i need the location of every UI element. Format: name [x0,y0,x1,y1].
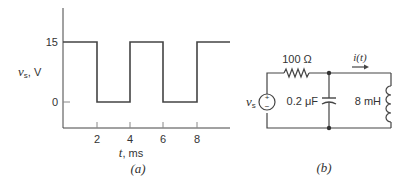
x-tick-label-6: 6 [160,133,166,145]
y-axis-label: vs, V [18,64,42,80]
source-minus-sign: − [265,102,270,111]
resistor-label: 100 Ω [282,53,312,65]
caption-a: (a) [130,161,145,176]
capacitor-label: 0.2 μF [287,95,319,107]
y-tick-label-15: 15 [46,36,58,48]
current-label: i(t) [353,51,367,64]
node-bottom [327,126,331,130]
x-tick-label-2: 2 [94,133,100,145]
circuit-diagram: 100 Ω + − vs 0.2 μF 8 mH i(t) (b) [246,51,391,175]
square-wave-trace [63,42,230,102]
node-top [327,71,331,75]
source-label: vs [246,94,256,110]
inductor-icon [386,86,391,122]
waveform-plot: 15 0 2 4 6 8 vs, V t, ms (a) [18,8,230,176]
current-arrowhead-icon [364,65,369,70]
y-tick-label-0: 0 [52,96,58,108]
x-tick-label-4: 4 [127,133,133,145]
source-plus-sign: + [265,93,270,102]
resistor-icon [284,69,309,77]
figure-canvas: 15 0 2 4 6 8 vs, V t, ms (a) 100 Ω + − v… [0,0,414,184]
x-tick-label-8: 8 [194,133,200,145]
inductor-label: 8 mH [355,95,381,107]
x-axis-label: t, ms [119,145,144,160]
caption-b: (b) [316,160,331,175]
